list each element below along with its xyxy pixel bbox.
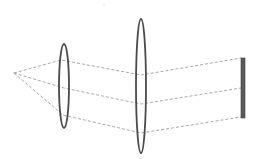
lens-2	[136, 19, 146, 153]
upper-ray	[14, 58, 241, 75]
lower-ray	[14, 73, 241, 133]
screen	[241, 58, 245, 118]
optical-diagram	[0, 0, 257, 159]
speck-mark	[103, 4, 105, 6]
middle-ray	[14, 73, 241, 104]
point-source	[13, 72, 14, 73]
ray-group	[14, 58, 241, 133]
